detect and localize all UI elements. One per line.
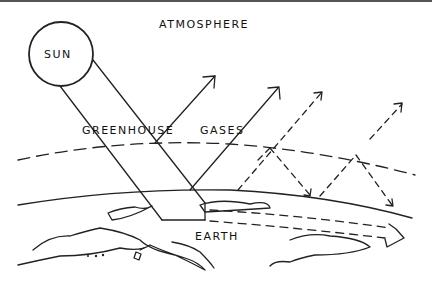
earth-label: EARTH xyxy=(195,230,239,243)
gases-label: GASES xyxy=(200,124,244,137)
greenhouse-label: GREENHOUSE xyxy=(82,124,174,137)
greenhouse-diagram xyxy=(0,0,432,289)
reflected-ray-2 xyxy=(190,88,278,190)
earth-surface xyxy=(18,190,412,218)
sun-label: SUN xyxy=(44,48,72,61)
sun-ray-1 xyxy=(60,86,162,220)
atmosphere-label: ATMOSPHERE xyxy=(159,18,249,31)
